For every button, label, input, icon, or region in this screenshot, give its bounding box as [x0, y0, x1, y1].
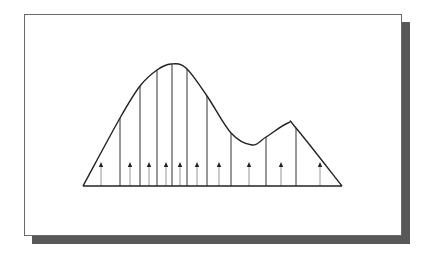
up-arrow-icon [195, 162, 199, 186]
up-arrow-icon [178, 162, 182, 186]
up-arrow-icon [164, 162, 168, 186]
up-arrow-icon [99, 162, 103, 186]
load-distribution-diagram [0, 0, 434, 260]
up-arrow-icon [279, 162, 283, 186]
up-arrow-icon [147, 162, 151, 186]
dividers-group [120, 64, 296, 186]
arrows-group [99, 162, 322, 186]
up-arrow-icon [217, 162, 221, 186]
up-arrow-icon [247, 162, 251, 186]
up-arrow-icon [318, 162, 322, 186]
load-curve [83, 64, 342, 186]
up-arrow-icon [128, 162, 132, 186]
